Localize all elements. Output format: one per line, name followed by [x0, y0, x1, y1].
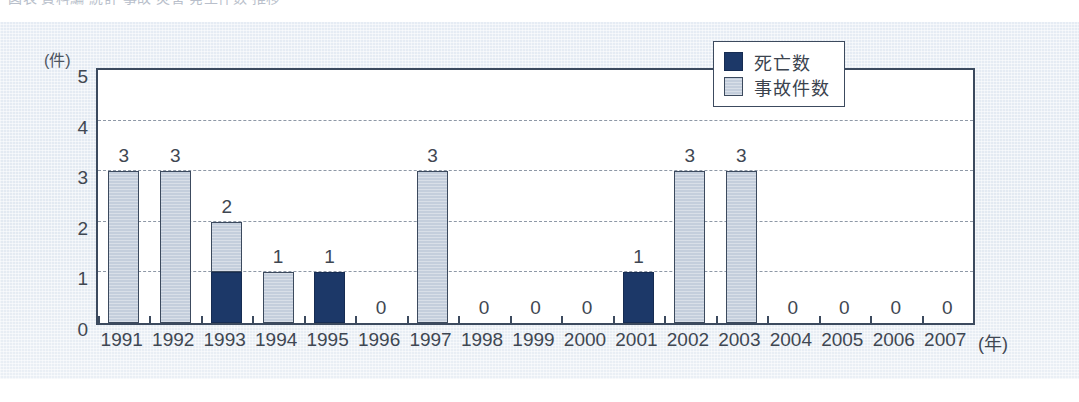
bar-segment-accidents[interactable]	[211, 222, 242, 273]
x-tick-label-2001: 2001	[615, 329, 657, 351]
x-tick-1995	[304, 316, 306, 323]
bar-group[interactable]: 0	[880, 70, 911, 323]
legend-item-label: 事故件数	[754, 74, 830, 100]
x-tick-1994	[252, 316, 254, 323]
x-tick-1991	[98, 316, 100, 323]
x-axis-unit-label: (年)	[978, 329, 1008, 355]
bar-group[interactable]: 0	[520, 70, 551, 323]
bar-value-label: 0	[917, 297, 977, 319]
chart-legend: 死亡数事故件数	[713, 41, 845, 107]
x-tick-2002	[664, 316, 666, 323]
chart-panel: (件) 012345 33211030001330000 19911992199…	[0, 22, 1079, 379]
x-tick-label-1998: 1998	[461, 329, 503, 351]
bar-group[interactable]: 0	[469, 70, 500, 323]
bar-value-label: 1	[608, 246, 668, 268]
x-tick-label-2003: 2003	[718, 329, 760, 351]
cropped-title-text: 図表 資料編 統計 事故 災害 発生件数 推移	[8, 0, 281, 7]
bar-group[interactable]: 0	[571, 70, 602, 323]
bar-group[interactable]: 1	[314, 70, 345, 323]
y-tick-1: 1	[77, 268, 88, 272]
bar-segment-accidents[interactable]	[417, 171, 448, 323]
bar-group[interactable]: 3	[674, 70, 705, 323]
x-tick-label-2006: 2006	[873, 329, 915, 351]
bar-segment-deaths[interactable]	[211, 272, 242, 323]
y-tick-4: 4	[77, 117, 88, 121]
x-tick-label-2005: 2005	[821, 329, 863, 351]
bar-group[interactable]: 0	[777, 70, 808, 323]
x-tick-label-2002: 2002	[667, 329, 709, 351]
bar-segment-accidents[interactable]	[160, 171, 191, 323]
bar-value-label: 0	[557, 297, 617, 319]
figure-page: 図表 資料編 統計 事故 災害 発生件数 推移 (件) 012345 33211…	[0, 0, 1079, 402]
y-tick-2: 2	[77, 218, 88, 222]
legend-swatch-dark	[724, 52, 743, 71]
bar-segment-accidents[interactable]	[674, 171, 705, 323]
bar-segment-accidents[interactable]	[263, 272, 294, 323]
bar-group[interactable]: 1	[263, 70, 294, 323]
x-tick-label-2000: 2000	[564, 329, 606, 351]
bar-value-label: 2	[197, 196, 257, 218]
legend-item[interactable]: 死亡数	[724, 49, 830, 74]
y-tick-5: 5	[77, 66, 88, 70]
x-tick-label-1995: 1995	[306, 329, 348, 351]
bar-group[interactable]: 3	[417, 70, 448, 323]
bar-value-label: 0	[351, 297, 411, 319]
x-tick-1993	[201, 316, 203, 323]
x-tick-label-2004: 2004	[770, 329, 812, 351]
x-tick-label-2007: 2007	[924, 329, 966, 351]
bar-segment-deaths[interactable]	[623, 272, 654, 323]
x-tick-label-1994: 1994	[255, 329, 297, 351]
legend-item-label: 死亡数	[754, 49, 811, 75]
bar-value-label: 3	[711, 145, 771, 167]
bar-group[interactable]: 3	[108, 70, 139, 323]
x-tick-2001	[613, 316, 615, 323]
x-tick-1992	[149, 316, 151, 323]
bar-group[interactable]: 0	[932, 70, 963, 323]
bar-segment-accidents[interactable]	[108, 171, 139, 323]
x-tick-label-1999: 1999	[512, 329, 554, 351]
y-tick-3: 3	[77, 167, 88, 171]
y-tick-0: 0	[77, 319, 88, 323]
y-axis-tick-labels: 012345	[52, 68, 88, 325]
x-tick-label-1992: 1992	[152, 329, 194, 351]
bar-value-label: 1	[300, 246, 360, 268]
bar-value-label: 3	[145, 145, 205, 167]
bar-group[interactable]: 3	[726, 70, 757, 323]
cropped-title-strip: 図表 資料編 統計 事故 災害 発生件数 推移	[0, 0, 1079, 13]
x-tick-1997	[407, 316, 409, 323]
bar-value-label: 3	[403, 145, 463, 167]
bar-segment-accidents[interactable]	[726, 171, 757, 323]
bar-group[interactable]: 2	[211, 70, 242, 323]
x-tick-label-1996: 1996	[358, 329, 400, 351]
x-tick-label-1993: 1993	[204, 329, 246, 351]
bar-group[interactable]: 1	[623, 70, 654, 323]
bar-group[interactable]: 3	[160, 70, 191, 323]
x-axis-tick-labels: 1991199219931994199519961997199819992000…	[96, 329, 975, 357]
x-tick-label-1991: 1991	[101, 329, 143, 351]
legend-swatch-light	[724, 77, 743, 96]
bar-group[interactable]: 0	[366, 70, 397, 323]
bar-segment-deaths[interactable]	[314, 272, 345, 323]
x-tick-label-1997: 1997	[409, 329, 451, 351]
legend-item[interactable]: 事故件数	[724, 74, 830, 99]
bar-group[interactable]: 0	[829, 70, 860, 323]
x-tick-2003	[716, 316, 718, 323]
